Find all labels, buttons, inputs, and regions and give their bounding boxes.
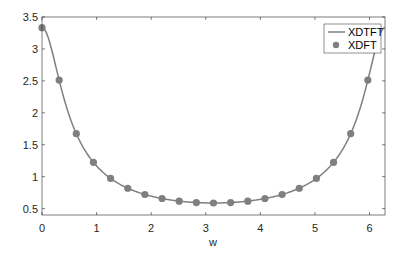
y-tick-label: 3 — [32, 43, 38, 55]
xdft-point — [227, 199, 234, 206]
x-tick-label: 0 — [39, 222, 45, 234]
legend-label-xdft: XDFT — [348, 39, 377, 51]
xdft-point — [244, 198, 251, 205]
xdft-point — [124, 185, 131, 192]
x-tick-label: 3 — [203, 222, 209, 234]
xdft-point — [141, 191, 148, 198]
xdft-point — [278, 191, 285, 198]
xdft-point — [296, 185, 303, 192]
xdft-point — [90, 159, 97, 166]
y-tick-label: 0.5 — [23, 203, 38, 215]
x-tick-label: 6 — [366, 222, 372, 234]
y-tick-label: 2 — [32, 107, 38, 119]
xdft-point — [73, 130, 80, 137]
xdft-point — [107, 175, 114, 182]
xdft-point — [193, 199, 200, 206]
xdft-point — [261, 195, 268, 202]
chart: 01234560.511.522.533.5 XDTFT XDFT w — [0, 0, 406, 261]
xdft-point — [56, 77, 63, 84]
xdft-point — [313, 175, 320, 182]
xdft-point — [347, 130, 354, 137]
xdft-point — [158, 195, 165, 202]
xdft-point — [210, 199, 217, 206]
legend-marker-icon — [333, 42, 339, 48]
xdft-point — [364, 77, 371, 84]
xdft-point — [330, 159, 337, 166]
x-axis-label: w — [208, 236, 217, 248]
xdft-point — [176, 198, 183, 205]
y-tick-label: 3.5 — [23, 11, 38, 23]
x-tick-label: 4 — [257, 222, 263, 234]
x-tick-label: 1 — [94, 222, 100, 234]
y-tick-label: 1.5 — [23, 139, 38, 151]
legend: XDTFT XDFT — [324, 24, 384, 53]
x-tick-label: 5 — [312, 222, 318, 234]
y-tick-label: 2.5 — [23, 75, 38, 87]
legend-label-xdtft: XDTFT — [348, 26, 384, 38]
y-tick-label: 1 — [32, 171, 38, 183]
x-tick-label: 2 — [148, 222, 154, 234]
